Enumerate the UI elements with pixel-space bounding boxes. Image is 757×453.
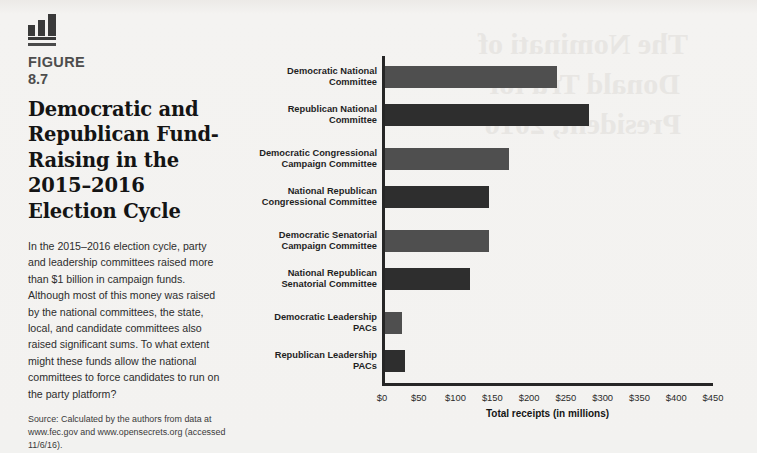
bar-1: Democratic National Committee bbox=[385, 66, 557, 88]
x-tick-label: $200 bbox=[519, 392, 540, 403]
bar-category-label: Democratic Senatorial Campaign Committee bbox=[227, 230, 377, 253]
plot-area: Democratic National CommitteeRepublican … bbox=[382, 56, 714, 386]
x-tick-label: $350 bbox=[629, 392, 650, 403]
figure-caption-column: FIGURE 8.7 Democratic and Republican Fun… bbox=[28, 14, 228, 453]
bar-category-label: National Republican Congressional Commit… bbox=[227, 186, 377, 209]
figure-number: 8.7 bbox=[28, 71, 228, 87]
bar-category-label: Democratic National Committee bbox=[227, 66, 377, 89]
bar-4: National Republican Congressional Commit… bbox=[385, 186, 489, 208]
x-tick-label: $250 bbox=[555, 392, 576, 403]
x-tick-label: $150 bbox=[482, 392, 503, 403]
bar-6: National Republican Senatorial Committee bbox=[385, 268, 470, 290]
figure-description: In the 2015–2016 election cycle, party a… bbox=[28, 238, 224, 402]
bar-category-label: Republican National Committee bbox=[227, 104, 377, 127]
bar-3: Democratic Congressional Campaign Commit… bbox=[385, 148, 509, 170]
figure-title: Democratic and Republican Fund-Raising i… bbox=[28, 97, 228, 225]
bar-category-label: Democratic Congressional Campaign Commit… bbox=[227, 148, 377, 171]
figure-label: FIGURE bbox=[28, 55, 228, 71]
bar-5: Democratic Senatorial Campaign Committee bbox=[385, 230, 489, 252]
bar-fill bbox=[385, 104, 589, 126]
bar-fill bbox=[385, 268, 470, 290]
bar-fill bbox=[385, 350, 405, 372]
bar-fill bbox=[385, 186, 489, 208]
bar-7: Democratic Leadership PACs bbox=[385, 312, 402, 334]
x-tick-label: $50 bbox=[411, 392, 427, 403]
bar-fill bbox=[385, 312, 402, 334]
bar-category-label: Republican Leadership PACs bbox=[227, 350, 377, 373]
bar-fill bbox=[385, 66, 557, 88]
x-tick-label: $0 bbox=[377, 392, 387, 403]
bar-fill bbox=[385, 148, 509, 170]
bar-category-label: National Republican Senatorial Committee bbox=[227, 268, 377, 291]
x-tick-label: $100 bbox=[445, 392, 466, 403]
bar-chart: Democratic National CommitteeRepublican … bbox=[236, 56, 736, 428]
figure-source: Source: Calculated by the authors from d… bbox=[28, 413, 228, 453]
x-tick-label: $400 bbox=[666, 392, 687, 403]
bar-2: Republican National Committee bbox=[385, 104, 589, 126]
bar-fill bbox=[385, 230, 489, 252]
divider-rule bbox=[28, 43, 56, 46]
bar-chart-icon bbox=[28, 14, 62, 40]
x-axis-label: Total receipts (in millions) bbox=[382, 408, 713, 419]
bar-category-label: Democratic Leadership PACs bbox=[227, 312, 377, 335]
x-tick-label: $450 bbox=[703, 392, 724, 403]
x-axis-line bbox=[382, 383, 713, 386]
bar-8: Republican Leadership PACs bbox=[385, 350, 405, 372]
x-tick-label: $300 bbox=[592, 392, 613, 403]
